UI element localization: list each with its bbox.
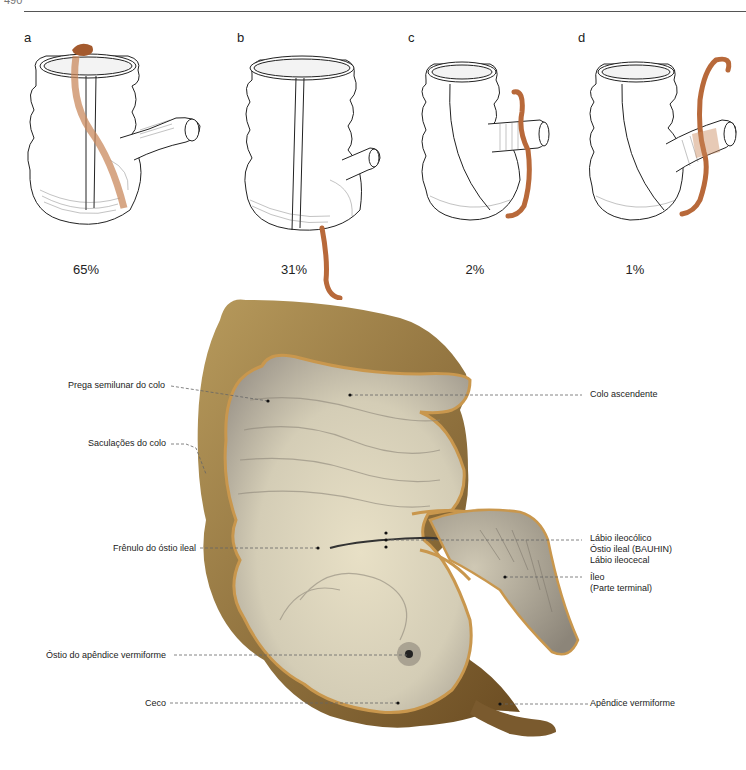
label-colo-ascendente: Colo ascendente	[590, 389, 658, 400]
label-ileo: Íleo	[590, 572, 605, 583]
label-saculacoes: Saculações do colo	[88, 438, 166, 449]
label-labio-ileocolico: Lábio ileocólico	[590, 533, 652, 544]
label-ceco: Ceco	[145, 698, 166, 709]
label-parte-terminal: (Parte terminal)	[590, 583, 652, 594]
label-ostio-apendice: Óstio do apêndice vermiforme	[46, 650, 166, 661]
label-labio-ileocecal: Lábio ileocecal	[590, 555, 650, 566]
label-apendice-vermiforme: Apêndice vermiforme	[590, 698, 675, 709]
label-frenulo: Frênulo do óstio ileal	[113, 543, 196, 554]
label-ostio-ileal: Óstio ileal (BAUHIN)	[590, 544, 672, 555]
label-prega-semilunar: Prega semilunar do colo	[68, 380, 165, 391]
